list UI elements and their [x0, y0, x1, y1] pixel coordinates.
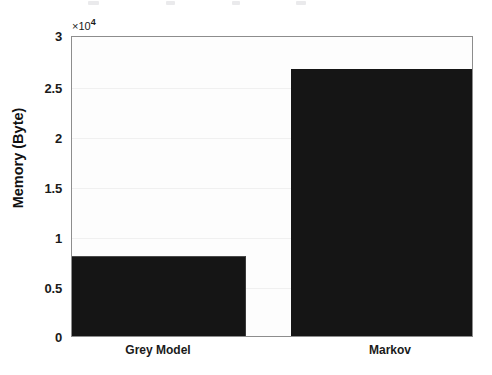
- y-tick-label-20000: 2: [30, 131, 62, 146]
- y-axis-exponent: ×104: [72, 17, 96, 33]
- bar-markov[interactable]: [291, 69, 473, 336]
- plot-area: [71, 36, 473, 337]
- x-tick-label-grey-model: Grey Model: [98, 343, 218, 357]
- x-tick-label-markov: Markov: [330, 343, 450, 357]
- y-tick-label-15000: 1.5: [30, 181, 62, 196]
- y-axis-title: Memory (Byte): [10, 78, 26, 238]
- y-tick-label-30000: 3: [30, 29, 62, 44]
- bar-chart-figure: ×104 Memory (Byte) 3 2.5 2 1.5 1 0.5 0 G…: [0, 0, 492, 375]
- y-tick-label-5000: 0.5: [30, 281, 62, 296]
- y-axis-exponent-times: ×10: [72, 20, 91, 32]
- y-tick-label-25000: 2.5: [30, 81, 62, 96]
- y-axis-exponent-power: 4: [91, 17, 96, 27]
- bar-grey-model[interactable]: [72, 256, 246, 336]
- y-tick-label-10000: 1: [30, 231, 62, 246]
- y-tick-label-0: 0: [30, 330, 62, 345]
